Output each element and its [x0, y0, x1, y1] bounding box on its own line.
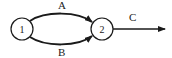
edge-a: A [30, 0, 92, 22]
edge-c: C [113, 11, 165, 29]
node-1: 1 [11, 18, 33, 40]
node-1-label: 1 [20, 24, 25, 35]
edge-b: B [30, 36, 92, 58]
node-2-label: 2 [100, 24, 105, 35]
edge-c-label: C [129, 11, 136, 23]
flow-diagram: A B C 1 2 [0, 0, 172, 58]
edge-b-label: B [58, 46, 65, 58]
edge-a-label: A [58, 0, 66, 11]
node-2: 2 [91, 18, 113, 40]
edge-a-line [30, 14, 92, 22]
edge-b-line [30, 36, 92, 44]
